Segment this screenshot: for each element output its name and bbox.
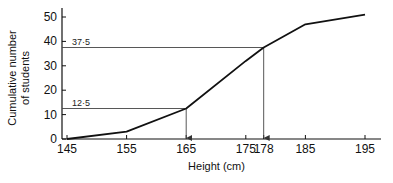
series	[67, 14, 365, 139]
x-tick-label: 155	[117, 142, 137, 156]
y-axis-title-line: of students	[19, 51, 31, 105]
annotation-label: 37·5	[72, 37, 90, 47]
x-tick-label: 165	[176, 142, 196, 156]
ogive-chart: 01020304050145155165175178185195Height (…	[0, 0, 393, 183]
x-tick-label: 195	[355, 142, 375, 156]
y-tick-label: 20	[44, 83, 58, 97]
annotations	[62, 48, 264, 139]
x-tick-label: 145	[57, 142, 77, 156]
labels: 01020304050145155165175178185195Height (…	[6, 10, 375, 172]
y-tick-label: 30	[44, 59, 58, 73]
annotation-label: 12·5	[72, 98, 90, 108]
axes	[62, 8, 381, 139]
y-tick-label: 40	[44, 34, 58, 48]
ogive-line	[67, 15, 365, 139]
y-tick-label: 10	[44, 108, 58, 122]
x-tick-label: 178	[254, 142, 274, 156]
x-tick-label: 185	[295, 142, 315, 156]
y-axis-title-line: Cumulative number	[6, 30, 18, 126]
x-axis-title: Height (cm)	[188, 160, 245, 172]
y-tick-label: 50	[44, 10, 58, 24]
